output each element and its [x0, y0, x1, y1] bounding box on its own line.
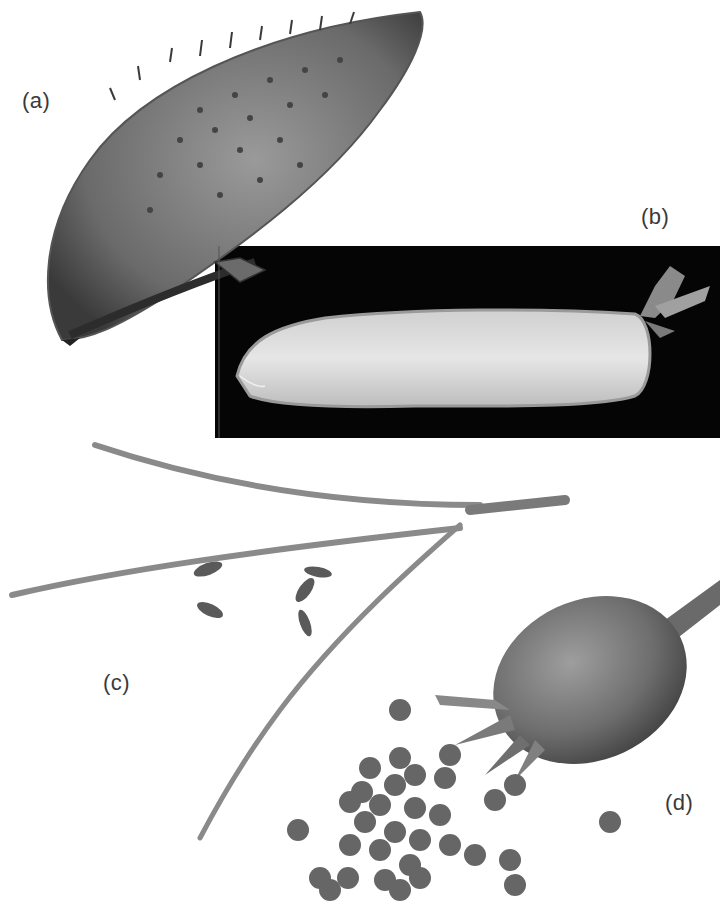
panel-label-d: (d): [665, 790, 693, 816]
panel-label-a: (a): [22, 88, 50, 114]
panel-label-b: (b): [641, 204, 669, 230]
specimen-d-fruit-and-seeds: [270, 560, 720, 909]
specimen-b-hairy-pod: [215, 246, 720, 438]
panel-label-c: (c): [103, 670, 130, 696]
